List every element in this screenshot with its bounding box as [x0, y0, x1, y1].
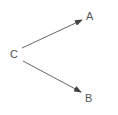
node-b-label: B — [85, 92, 92, 104]
edge-c-to-b — [23, 61, 81, 92]
diagram-canvas: C A B — [0, 0, 118, 115]
node-c-label: C — [10, 48, 18, 60]
edge-c-to-a — [22, 20, 82, 48]
node-a-label: A — [86, 10, 94, 22]
